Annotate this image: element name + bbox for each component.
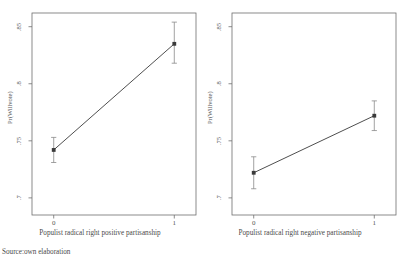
x-tick-label: 1 bbox=[164, 219, 184, 227]
y-tick-label: .85 bbox=[15, 19, 25, 35]
x-tick-label: 0 bbox=[244, 219, 264, 227]
plot-area-left bbox=[0, 0, 200, 246]
y-tick-label: .8 bbox=[215, 76, 225, 92]
plot-area-right bbox=[200, 0, 400, 246]
y-tick-label: .85 bbox=[215, 19, 225, 35]
figure-container: Pr(Willvote) Populist radical right posi… bbox=[0, 0, 401, 264]
chart-panel-right: Pr(Willvote) Populist radical right nega… bbox=[200, 0, 400, 246]
y-tick-label: .75 bbox=[215, 133, 225, 149]
y-tick-label: .7 bbox=[215, 190, 225, 206]
source-note: Source:own elaboration bbox=[2, 248, 70, 256]
y-tick-label: .75 bbox=[15, 133, 25, 149]
y-tick-label: .7 bbox=[15, 190, 25, 206]
chart-panel-left: Pr(Willvote) Populist radical right posi… bbox=[0, 0, 200, 246]
x-axis-title-left: Populist radical right positive partisan… bbox=[0, 229, 200, 237]
x-axis-title-right: Populist radical right negative partisan… bbox=[200, 229, 400, 237]
y-tick-label: .8 bbox=[15, 76, 25, 92]
x-tick-label: 1 bbox=[364, 219, 384, 227]
x-tick-label: 0 bbox=[44, 219, 64, 227]
